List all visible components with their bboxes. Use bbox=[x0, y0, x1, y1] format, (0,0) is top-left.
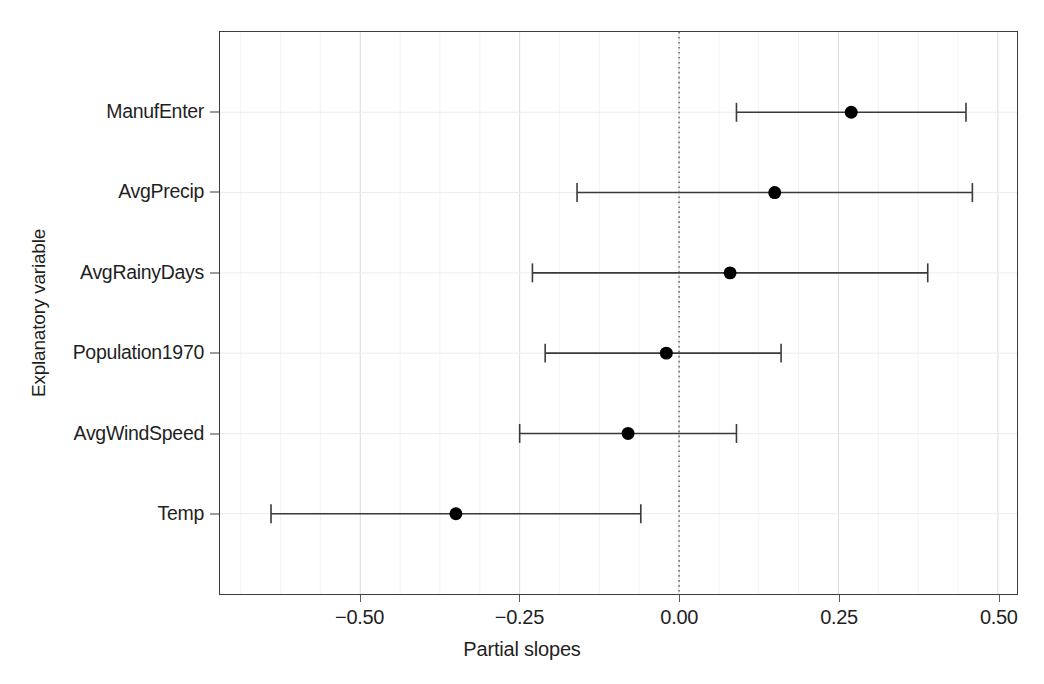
y-axis-tick-label: AvgRainyDays bbox=[0, 263, 204, 283]
x-axis-tick-label: 0.25 bbox=[769, 606, 909, 629]
x-axis-tick-mark bbox=[839, 595, 840, 602]
y-axis-tick-mark bbox=[210, 514, 219, 515]
x-axis-tick-mark bbox=[360, 595, 361, 602]
y-axis-tick-mark bbox=[210, 272, 219, 273]
estimate-marker bbox=[845, 106, 858, 119]
data-layer bbox=[220, 32, 1017, 594]
x-axis-tick-mark bbox=[999, 595, 1000, 602]
y-axis-tick-mark bbox=[210, 111, 219, 112]
x-axis-title-text: Partial slopes bbox=[463, 638, 580, 661]
y-axis-tick-label: AvgWindSpeed bbox=[0, 424, 204, 444]
data-point-group bbox=[577, 183, 972, 202]
y-axis-tick-mark bbox=[210, 353, 219, 354]
data-point-group bbox=[271, 504, 641, 523]
y-axis-tick-labels: ManufEnterAvgPrecipAvgRainyDaysPopulatio… bbox=[0, 31, 204, 595]
data-point-group bbox=[532, 263, 927, 282]
y-axis-tick-mark bbox=[210, 192, 219, 193]
plot-area bbox=[219, 31, 1018, 595]
x-axis-tick-label: 0.00 bbox=[609, 606, 749, 629]
data-point-group bbox=[736, 103, 966, 122]
y-axis-tick-label: AvgPrecip bbox=[0, 182, 204, 202]
x-axis-tick-mark bbox=[679, 595, 680, 602]
y-axis-tick-label: ManufEnter bbox=[0, 102, 204, 122]
x-axis-title: Partial slopes bbox=[0, 638, 1044, 661]
x-axis-tick-label: −0.50 bbox=[290, 606, 430, 629]
estimate-marker bbox=[449, 507, 462, 520]
y-axis-tick-mark bbox=[210, 433, 219, 434]
estimate-marker bbox=[724, 266, 737, 279]
y-axis-tick-label: Temp bbox=[0, 505, 204, 525]
data-point-group bbox=[520, 424, 737, 443]
y-axis-tick-label: Population1970 bbox=[0, 344, 204, 364]
x-axis-tick-labels: −0.50−0.250.000.250.50 bbox=[0, 606, 1044, 636]
estimate-marker bbox=[660, 347, 673, 360]
x-axis-tick-label: −0.25 bbox=[449, 606, 589, 629]
coefficient-plot: Explanatory variable ManufEnterAvgPrecip… bbox=[0, 0, 1044, 684]
estimate-marker bbox=[768, 186, 781, 199]
estimate-marker bbox=[622, 427, 635, 440]
x-axis-tick-label: 0.50 bbox=[929, 606, 1044, 629]
data-point-group bbox=[545, 344, 781, 363]
x-axis-tick-mark bbox=[519, 595, 520, 602]
